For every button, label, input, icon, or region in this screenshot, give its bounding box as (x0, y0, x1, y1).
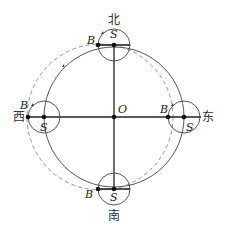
north-s-point (112, 43, 117, 48)
south-label: 南 (108, 208, 120, 223)
north-s-label: S (110, 28, 118, 41)
north-b-point (96, 43, 101, 48)
north-label: 北 (108, 13, 120, 27)
south-b-point (96, 187, 101, 192)
west-label: 西 (13, 110, 25, 124)
south-s-label: S (110, 191, 118, 204)
east-s-point (182, 115, 187, 120)
east-label: 东 (202, 110, 214, 124)
orbit-arrow-icon (62, 64, 65, 67)
orbit-diagram: O 北 南 东 西 S S S S B B B B (0, 0, 228, 234)
south-b-label: B (84, 188, 93, 201)
west-b-point (26, 115, 31, 120)
west-b-label: B (19, 99, 28, 112)
center-label: O (118, 103, 127, 116)
north-b-label: B (86, 34, 95, 47)
east-s-label: S (186, 121, 194, 134)
north-arrow-icon (101, 31, 104, 34)
west-arrow-icon (31, 103, 34, 106)
east-b-label: B (159, 103, 168, 116)
west-s-point (42, 115, 47, 120)
west-s-label: S (40, 121, 48, 134)
center-point (112, 115, 117, 120)
